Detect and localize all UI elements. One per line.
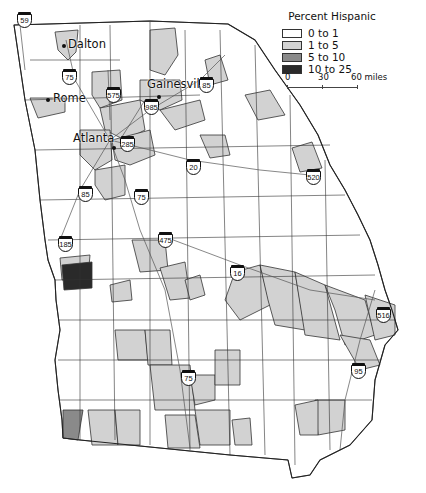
city-label-dalton: Dalton <box>68 37 106 51</box>
legend-swatch-5-to-10 <box>282 53 302 62</box>
rome-dot <box>46 98 50 102</box>
interstate-shield-16: 16 <box>229 265 246 282</box>
interstate-shield-520: 520 <box>305 169 322 186</box>
interstate-shield-95: 95 <box>350 363 367 380</box>
interstate-shield-85-south: 85 <box>77 186 94 203</box>
scale-bar: 0 30 60 miles <box>283 72 403 94</box>
legend-item: 5 to 10 <box>282 52 422 64</box>
city-label-rome: Rome <box>53 91 86 105</box>
interstate-shield-185: 185 <box>57 236 74 253</box>
interstate-shield-475: 475 <box>157 232 174 249</box>
interstate-shield-85-north: 85 <box>198 77 215 94</box>
legend-label: 0 to 1 <box>308 27 339 39</box>
atlanta-dot <box>112 146 116 150</box>
interstate-shield-59: 59 <box>16 12 33 29</box>
legend: Percent Hispanic 0 to 1 1 to 5 5 to 10 1… <box>282 10 422 76</box>
interstate-shield-75-north: 75 <box>61 69 78 86</box>
scale-label-60: 60 miles <box>351 72 387 82</box>
scale-tick <box>357 85 358 89</box>
legend-title: Percent Hispanic <box>282 10 382 22</box>
interstate-shield-20: 20 <box>185 159 202 176</box>
scale-tick <box>287 85 288 89</box>
legend-label: 5 to 10 <box>308 51 345 63</box>
scale-label-0: 0 <box>285 72 290 82</box>
legend-swatch-0-to-1 <box>282 29 302 38</box>
interstate-shield-285: 285 <box>119 136 136 153</box>
legend-item: 1 to 5 <box>282 40 422 52</box>
interstate-shield-985: 985 <box>143 99 160 116</box>
scale-tick <box>322 85 323 89</box>
interstate-shield-75-south: 75 <box>180 370 197 387</box>
scale-label-30: 30 <box>318 72 329 82</box>
interstate-shield-75-mid: 75 <box>133 189 150 206</box>
interstate-shield-575: 575 <box>105 87 122 104</box>
interstate-shield-516: 516 <box>375 307 392 324</box>
legend-swatch-1-to-5 <box>282 41 302 50</box>
counties-10-to-25 <box>62 262 92 290</box>
legend-label: 1 to 5 <box>308 39 339 51</box>
city-label-atlanta: Atlanta <box>73 131 114 145</box>
legend-item: 0 to 1 <box>282 28 422 40</box>
dalton-dot <box>62 44 66 48</box>
